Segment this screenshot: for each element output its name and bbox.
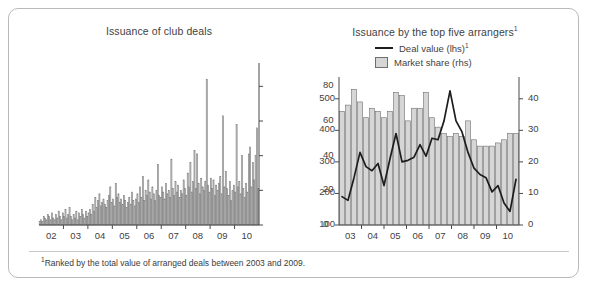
bar bbox=[163, 192, 164, 225]
bar bbox=[140, 187, 141, 225]
y-axis-left-label: 300 bbox=[311, 155, 335, 166]
bar bbox=[345, 105, 350, 225]
bar bbox=[243, 189, 244, 225]
x-axis-label: 03 bbox=[70, 230, 81, 241]
bar bbox=[137, 194, 138, 225]
x-axis-label: 06 bbox=[412, 230, 423, 241]
legend-label-deal-value: Deal value (lhs)1 bbox=[399, 42, 469, 54]
bar bbox=[46, 220, 47, 225]
legend-item-market-share: Market share (rhs) bbox=[375, 56, 573, 68]
bar bbox=[118, 194, 119, 225]
x-axis-label: 05 bbox=[119, 230, 130, 241]
x-axis-label: 02 bbox=[46, 230, 57, 241]
bar bbox=[156, 190, 157, 225]
bar bbox=[202, 187, 203, 225]
bar bbox=[55, 215, 56, 225]
bar bbox=[411, 108, 416, 225]
bar bbox=[213, 180, 214, 225]
bar bbox=[501, 140, 506, 225]
bar bbox=[146, 196, 147, 225]
x-axis-label: 04 bbox=[95, 230, 106, 241]
bar bbox=[160, 197, 161, 225]
bar bbox=[89, 209, 90, 225]
bar bbox=[429, 118, 434, 225]
bar bbox=[61, 220, 62, 225]
y-axis-left-label: 100 bbox=[311, 218, 335, 229]
bar bbox=[129, 197, 130, 225]
bar bbox=[231, 201, 232, 225]
bar bbox=[122, 204, 123, 225]
bar bbox=[161, 187, 162, 225]
x-axis-label: 07 bbox=[435, 230, 446, 241]
bar bbox=[254, 180, 255, 225]
bar bbox=[74, 218, 75, 225]
bar bbox=[241, 156, 242, 225]
bar bbox=[134, 206, 135, 225]
bar bbox=[423, 92, 428, 225]
bar bbox=[232, 190, 233, 225]
bar bbox=[247, 192, 248, 225]
panel-right-title: Issuance by the top five arrangers1 bbox=[297, 25, 573, 38]
x-axis-label: 09 bbox=[480, 230, 491, 241]
x-axis-label: 08 bbox=[457, 230, 468, 241]
bar bbox=[126, 208, 127, 225]
footnote-divider bbox=[29, 251, 569, 252]
y-axis-left-label: 500 bbox=[311, 92, 335, 103]
bar bbox=[102, 202, 103, 225]
bar bbox=[60, 216, 61, 225]
bar bbox=[369, 108, 374, 225]
bar bbox=[255, 156, 256, 225]
bar bbox=[141, 197, 142, 225]
bar bbox=[136, 199, 137, 225]
bar bbox=[483, 146, 488, 225]
bar bbox=[93, 211, 94, 225]
bar bbox=[214, 196, 215, 225]
bar bbox=[159, 196, 160, 225]
bar bbox=[115, 183, 116, 225]
bar bbox=[240, 194, 241, 225]
bar bbox=[477, 146, 482, 225]
bar bbox=[417, 108, 422, 225]
bar bbox=[64, 216, 65, 225]
bar bbox=[193, 182, 194, 225]
line-swatch-icon bbox=[375, 47, 393, 49]
bar bbox=[133, 201, 134, 225]
bar bbox=[201, 178, 202, 225]
bar bbox=[53, 218, 54, 225]
bar bbox=[51, 213, 52, 225]
bar bbox=[57, 218, 58, 225]
bar bbox=[155, 201, 156, 225]
bar bbox=[221, 194, 222, 225]
bar bbox=[441, 133, 446, 225]
bar bbox=[447, 137, 452, 225]
bar bbox=[121, 199, 122, 225]
y-axis-right-label: 20 bbox=[528, 155, 539, 166]
bar bbox=[251, 187, 252, 225]
bar bbox=[47, 215, 48, 225]
bar bbox=[381, 118, 386, 225]
bar bbox=[250, 147, 251, 225]
bar bbox=[42, 222, 43, 225]
bar bbox=[237, 187, 238, 225]
bar bbox=[112, 199, 113, 225]
bar bbox=[39, 222, 40, 225]
bar bbox=[182, 194, 183, 225]
bar bbox=[194, 150, 195, 225]
y-axis-right-label: 0 bbox=[528, 218, 533, 229]
bar bbox=[405, 121, 410, 225]
x-axis-label: 09 bbox=[217, 230, 228, 241]
y-axis-right-label: 40 bbox=[528, 92, 539, 103]
bar bbox=[150, 199, 151, 225]
bar bbox=[72, 220, 73, 225]
bar bbox=[224, 187, 225, 225]
panel-right-title-footnote-marker: 1 bbox=[514, 25, 518, 32]
legend-label-market-share: Market share (rhs) bbox=[394, 57, 472, 68]
bar bbox=[175, 182, 176, 225]
bar bbox=[108, 196, 109, 225]
bar bbox=[495, 143, 500, 225]
bar bbox=[76, 211, 77, 225]
bar bbox=[209, 192, 210, 225]
footnote-text: Ranked by the total value of arranged de… bbox=[45, 258, 305, 268]
bar bbox=[176, 192, 177, 225]
bar bbox=[435, 127, 440, 225]
